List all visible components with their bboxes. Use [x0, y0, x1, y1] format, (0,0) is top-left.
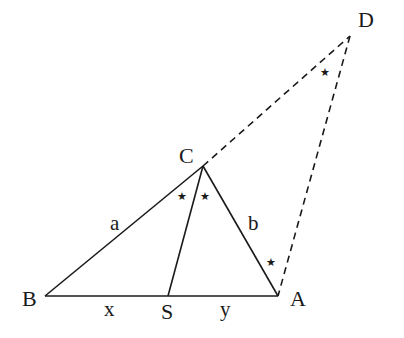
angle-mark-SCA-icon: ★ [200, 190, 210, 203]
side-label-x: x [104, 297, 115, 321]
side-label-a: a [110, 211, 120, 235]
vertex-label-B: B [22, 286, 37, 311]
angle-mark-CAD-icon: ★ [266, 256, 276, 269]
vertex-label-A: A [290, 286, 306, 311]
vertex-label-C: C [179, 143, 194, 168]
angle-mark-BCS-icon: ★ [177, 190, 187, 203]
segment-BC [45, 166, 203, 296]
segment-CA [203, 166, 278, 296]
angle-mark-CDA-icon: ★ [320, 66, 330, 79]
triangle-diagram: D C B S A a b x y ★ ★ ★ ★ [0, 0, 404, 338]
vertex-label-S: S [161, 299, 173, 324]
segment-DA-dashed [278, 36, 350, 296]
side-label-y: y [220, 297, 231, 321]
segment-CS-bisector [168, 166, 203, 296]
side-label-b: b [248, 211, 259, 235]
vertex-label-D: D [358, 7, 374, 32]
segment-CD-dashed [203, 36, 350, 166]
